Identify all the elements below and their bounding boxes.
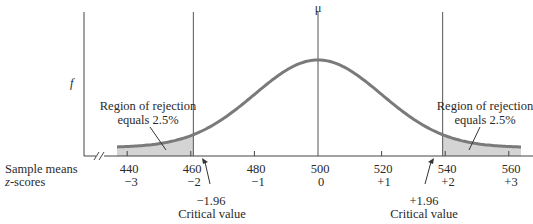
z-label-0: 0: [318, 176, 324, 189]
z-label-minus-1: −1: [251, 176, 264, 189]
z-label-minus-2: −2: [187, 176, 200, 189]
right-region-label-line2: equals 2.5%: [454, 114, 515, 127]
left-region-label-line1: Region of rejection: [100, 100, 197, 113]
z-label-plus-2: +2: [441, 176, 454, 189]
right-critical-arrow-icon: [425, 158, 434, 184]
left-critical-arrow-icon: [202, 158, 210, 184]
right-region-label-line1: Region of rejection: [437, 100, 533, 113]
left-region-label-line2: equals 2.5%: [117, 114, 178, 127]
z-label-plus-1: +1: [377, 176, 390, 189]
right-critical-caption: Critical value: [390, 208, 458, 221]
left-critical-caption: Critical value: [178, 208, 246, 221]
y-axis-label: f: [70, 77, 73, 90]
z-label-minus-3: −3: [124, 176, 137, 189]
z-label-plus-3: +3: [504, 176, 517, 189]
z-scores-row-label: z-scores: [5, 176, 45, 189]
mu-label: μ: [315, 2, 322, 15]
